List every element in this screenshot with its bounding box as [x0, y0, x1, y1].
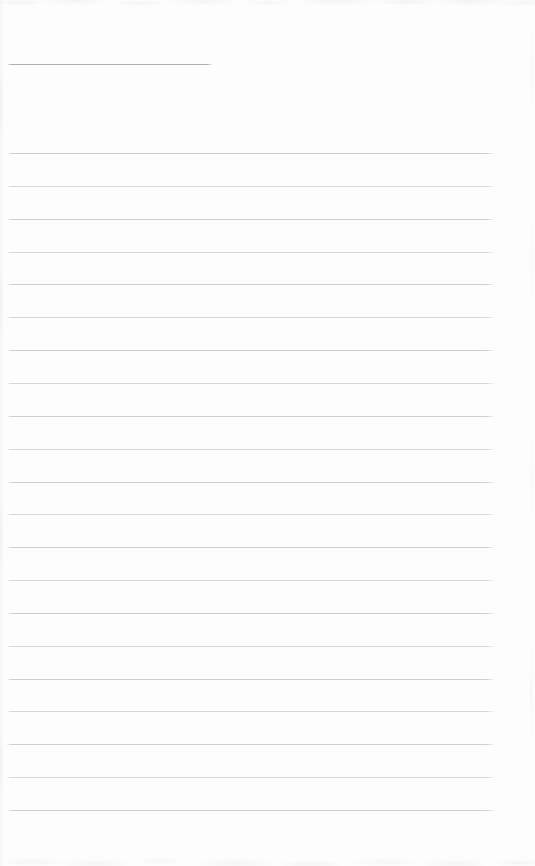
ruled-line — [6, 580, 496, 581]
ruled-line — [6, 219, 496, 220]
ruled-line — [6, 744, 496, 745]
paper-edge-texture-left — [0, 0, 6, 866]
ruled-line — [6, 679, 496, 680]
ruled-line — [6, 547, 496, 548]
paper-edge-texture-top — [0, 0, 535, 14]
ruled-line — [6, 350, 496, 351]
ruled-line — [6, 252, 496, 253]
ruled-line — [6, 383, 496, 384]
ruled-line — [6, 777, 496, 778]
ruled-line — [6, 449, 496, 450]
paper-edge-texture-right — [527, 0, 535, 866]
ruled-line — [6, 317, 496, 318]
notebook-page — [0, 0, 535, 866]
ruled-line — [6, 284, 496, 285]
partial-ruled-line — [7, 64, 213, 65]
ruled-line — [6, 646, 496, 647]
ruled-line — [6, 514, 496, 515]
paper-edge-texture-bottom — [0, 846, 535, 866]
ruled-line — [6, 416, 496, 417]
ruled-line — [6, 153, 496, 154]
ruled-line — [6, 810, 496, 811]
ruled-line — [6, 711, 496, 712]
ruled-line — [6, 482, 496, 483]
ruled-line — [6, 186, 496, 187]
ruled-line — [6, 613, 496, 614]
